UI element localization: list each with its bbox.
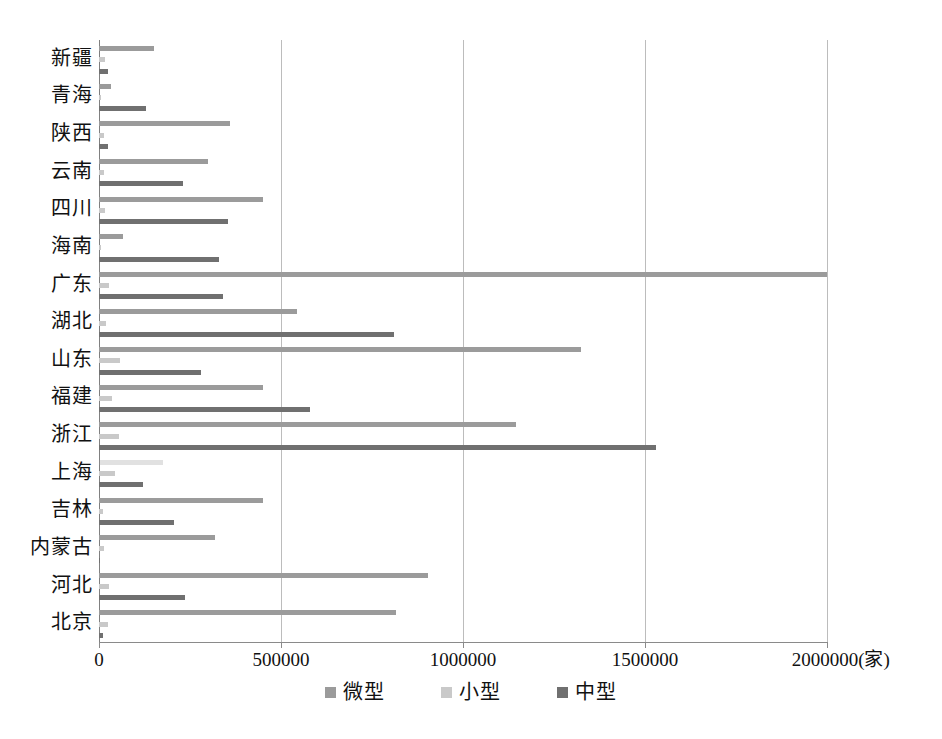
bar-row	[99, 573, 827, 578]
bar-小型-青海	[99, 95, 101, 100]
bar-row	[99, 257, 827, 262]
bar-row	[99, 95, 827, 100]
x-tick-label-1000000: 1000000	[430, 648, 497, 672]
category-label-广东: 广东	[51, 274, 93, 294]
bar-group	[99, 153, 827, 191]
bar-中型-浙江	[99, 445, 656, 450]
bar-row	[99, 121, 827, 126]
bar-row	[99, 498, 827, 503]
bar-group	[99, 228, 827, 266]
bar-微型-河北	[99, 573, 428, 578]
bar-微型-浙江	[99, 422, 516, 427]
bar-微型-新疆	[99, 46, 154, 51]
legend-swatch-icon	[441, 687, 452, 698]
bar-row	[99, 294, 827, 299]
bar-row	[99, 57, 827, 62]
horizontal-bar-chart: 新疆青海陕西云南四川海南广东湖北山东福建浙江上海吉林内蒙古河北北京 微型小型中型…	[0, 0, 942, 739]
legend-label: 微型	[343, 682, 385, 702]
bar-row	[99, 144, 827, 149]
bar-group	[99, 567, 827, 605]
bar-小型-浙江	[99, 434, 119, 439]
bar-小型-湖北	[99, 321, 106, 326]
category-label-云南: 云南	[51, 161, 93, 181]
chart-legend: 微型小型中型	[0, 682, 942, 702]
bar-中型-上海	[99, 482, 143, 487]
x-tick-label-500000: 500000	[253, 648, 310, 672]
category-label-海南: 海南	[51, 236, 93, 256]
bar-row	[99, 272, 827, 277]
bar-中型-吉林	[99, 520, 174, 525]
bar-中型-陕西	[99, 144, 108, 149]
legend-label: 中型	[575, 682, 617, 702]
bar-row	[99, 219, 827, 224]
bar-row	[99, 84, 827, 89]
bar-微型-吉林	[99, 498, 263, 503]
category-label-河北: 河北	[51, 575, 93, 595]
bar-微型-广东	[99, 272, 827, 277]
bar-row	[99, 197, 827, 202]
gridline-2000000	[827, 40, 828, 642]
bar-row	[99, 106, 827, 111]
category-label-吉林: 吉林	[51, 499, 93, 519]
bar-row	[99, 234, 827, 239]
legend-item-中型[interactable]: 中型	[557, 682, 617, 702]
bar-row	[99, 321, 827, 326]
bar-小型-北京	[99, 622, 108, 627]
bar-group	[99, 454, 827, 492]
bar-row	[99, 396, 827, 401]
bar-中型-北京	[99, 633, 103, 638]
category-label-青海: 青海	[51, 85, 93, 105]
bar-row	[99, 633, 827, 638]
bar-中型-湖北	[99, 332, 394, 337]
bar-中型-山东	[99, 370, 201, 375]
bar-row	[99, 370, 827, 375]
bar-row	[99, 46, 827, 51]
bar-中型-海南	[99, 257, 219, 262]
bar-小型-陕西	[99, 133, 104, 138]
bar-微型-内蒙古	[99, 535, 215, 540]
bar-小型-四川	[99, 208, 105, 213]
bar-row	[99, 546, 827, 551]
bar-微型-四川	[99, 197, 263, 202]
bar-group	[99, 416, 827, 454]
bar-row	[99, 208, 827, 213]
bar-微型-海南	[99, 234, 123, 239]
category-label-浙江: 浙江	[51, 424, 93, 444]
bar-小型-广东	[99, 283, 109, 288]
bar-中型-内蒙古	[99, 558, 100, 563]
x-tick-label-0: 0	[94, 648, 104, 672]
bar-row	[99, 332, 827, 337]
plot-area	[99, 40, 827, 642]
category-label-福建: 福建	[51, 386, 93, 406]
category-label-内蒙古: 内蒙古	[30, 537, 93, 557]
bar-row	[99, 407, 827, 412]
legend-item-小型[interactable]: 小型	[441, 682, 501, 702]
bar-中型-福建	[99, 407, 310, 412]
bar-row	[99, 422, 827, 427]
bar-微型-湖北	[99, 309, 297, 314]
bar-row	[99, 69, 827, 74]
bar-row	[99, 245, 827, 250]
bar-row	[99, 445, 827, 450]
bar-group	[99, 191, 827, 229]
x-tick-label-1500000: 1500000	[612, 648, 679, 672]
bar-group	[99, 115, 827, 153]
bar-微型-山东	[99, 347, 581, 352]
bar-row	[99, 471, 827, 476]
bar-row	[99, 460, 827, 465]
bar-小型-新疆	[99, 57, 105, 62]
bar-小型-河北	[99, 584, 109, 589]
bar-group	[99, 604, 827, 642]
bar-group	[99, 492, 827, 530]
bar-row	[99, 133, 827, 138]
bar-row	[99, 159, 827, 164]
bar-中型-广东	[99, 294, 223, 299]
category-label-山东: 山东	[51, 349, 93, 369]
legend-swatch-icon	[325, 687, 336, 698]
bar-row	[99, 358, 827, 363]
legend-item-微型[interactable]: 微型	[325, 682, 385, 702]
bar-row	[99, 509, 827, 514]
bar-小型-福建	[99, 396, 112, 401]
bar-row	[99, 520, 827, 525]
bar-小型-吉林	[99, 509, 103, 514]
